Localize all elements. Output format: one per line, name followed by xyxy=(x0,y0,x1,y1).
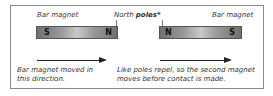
right-magnet-label: Bar magnet xyxy=(212,11,253,19)
north-poles-label: North poles* xyxy=(114,11,161,19)
left-direction-arrow xyxy=(37,60,105,61)
left-bar-magnet: S N xyxy=(36,26,118,39)
left-caption-line1: Bar magnet moved in xyxy=(17,66,93,74)
right-caption-line2: moves before contact is made. xyxy=(117,75,226,83)
left-caption-line2: this direction. xyxy=(17,75,65,83)
north-label-text: North xyxy=(114,11,136,19)
poles-label-bold: poles* xyxy=(136,11,161,19)
north-pole-label: N xyxy=(165,27,172,39)
left-magnet-label: Bar magnet xyxy=(37,11,78,19)
right-caption-line1: Like poles repel, so the second magnet xyxy=(117,66,255,74)
right-direction-arrow xyxy=(160,60,230,61)
north-pole-label: N xyxy=(105,27,112,39)
south-pole-label: S xyxy=(229,27,235,39)
south-pole-label: S xyxy=(44,27,50,39)
right-bar-magnet: N S xyxy=(159,26,242,39)
